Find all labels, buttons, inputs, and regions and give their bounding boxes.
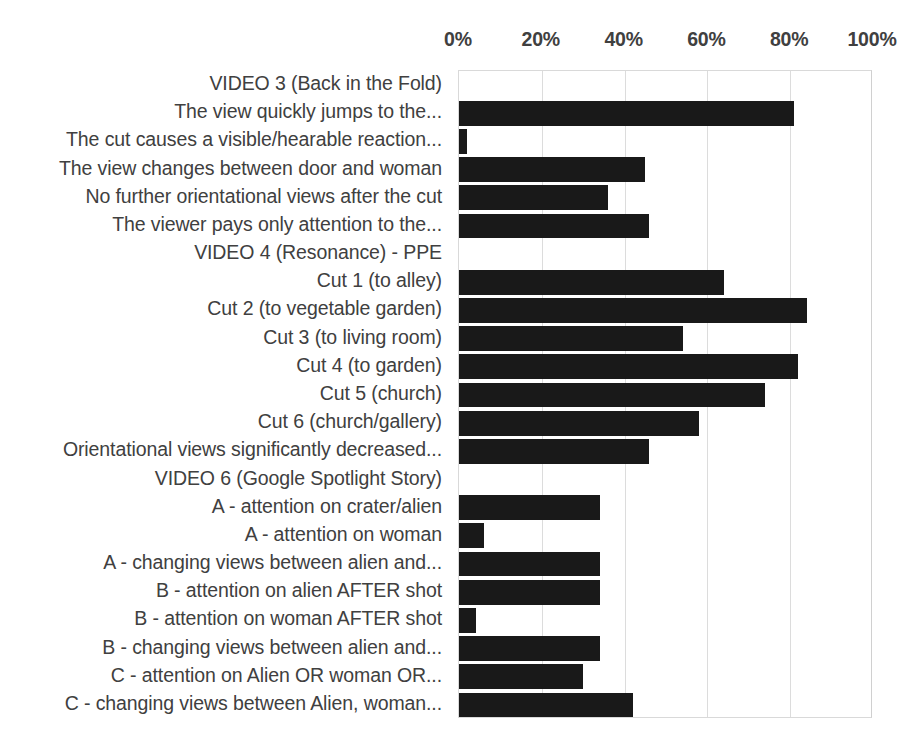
bar-row — [459, 296, 871, 324]
bar-row — [459, 437, 871, 465]
y-category-label: The view quickly jumps to the... — [174, 102, 442, 122]
bar — [459, 214, 649, 239]
bar-row — [459, 212, 871, 240]
y-category-label: B - attention on alien AFTER shot — [156, 581, 442, 601]
bar-row — [459, 409, 871, 437]
x-tick-label: 40% — [604, 28, 642, 51]
plot-area — [458, 70, 872, 718]
bar-row — [459, 156, 871, 184]
x-tick-label: 60% — [687, 28, 725, 51]
bar — [459, 298, 807, 323]
y-category-label: VIDEO 4 (Resonance) - PPE — [194, 243, 442, 263]
bar — [459, 439, 649, 464]
y-category-label: Cut 2 (to vegetable garden) — [207, 299, 442, 319]
bar — [459, 664, 583, 689]
y-category-label: Orientational views significantly decrea… — [63, 440, 442, 460]
bar — [459, 185, 608, 210]
bar-row — [459, 99, 871, 127]
bar-row — [459, 606, 871, 634]
bar — [459, 552, 600, 577]
bar-chart: 0%20%40%60%80%100% VIDEO 3 (Back in the … — [0, 0, 904, 744]
bar-row — [459, 634, 871, 662]
bar-row — [459, 381, 871, 409]
bar-row — [459, 494, 871, 522]
bar — [459, 157, 645, 182]
bar-row — [459, 184, 871, 212]
y-category-label: Cut 1 (to alley) — [317, 271, 442, 291]
bar-row — [459, 325, 871, 353]
bars-layer — [459, 71, 871, 717]
bar — [459, 580, 600, 605]
bar — [459, 326, 683, 351]
y-category-label: No further orientational views after the… — [85, 187, 442, 207]
bar — [459, 495, 600, 520]
bar — [459, 636, 600, 661]
x-tick-label: 100% — [847, 28, 896, 51]
y-category-label: A - changing views between alien and... — [103, 553, 442, 573]
x-axis-tick-labels: 0%20%40%60%80%100% — [458, 28, 872, 54]
bar-row — [459, 522, 871, 550]
y-category-label: C - attention on Alien OR woman OR... — [111, 666, 442, 686]
y-category-label: VIDEO 6 (Google Spotlight Story) — [155, 469, 442, 489]
bar — [459, 354, 798, 379]
bar-row — [459, 578, 871, 606]
bar — [459, 411, 699, 436]
y-category-label: B - attention on woman AFTER shot — [134, 609, 442, 629]
y-axis-category-labels: VIDEO 3 (Back in the Fold)The view quick… — [0, 70, 450, 718]
bar-row — [459, 550, 871, 578]
bar — [459, 129, 467, 154]
bar-row — [459, 663, 871, 691]
y-category-label: Cut 6 (church/gallery) — [258, 412, 442, 432]
y-category-label: C - changing views between Alien, woman.… — [65, 694, 442, 714]
bar-row — [459, 691, 871, 718]
bar-row — [459, 268, 871, 296]
x-tick-label: 0% — [444, 28, 472, 51]
bar-row — [459, 465, 871, 493]
bar — [459, 383, 765, 408]
bar — [459, 523, 484, 548]
y-category-label: VIDEO 3 (Back in the Fold) — [209, 74, 442, 94]
y-category-label: A - attention on woman — [245, 525, 442, 545]
y-category-label: Cut 5 (church) — [320, 384, 442, 404]
y-category-label: A - attention on crater/alien — [212, 497, 442, 517]
y-category-label: The cut causes a visible/hearable reacti… — [66, 130, 442, 150]
bar-row — [459, 127, 871, 155]
y-category-label: Cut 3 (to living room) — [263, 328, 442, 348]
bar — [459, 608, 476, 633]
bar — [459, 101, 794, 126]
bar — [459, 270, 724, 295]
bar-row — [459, 353, 871, 381]
bar-row — [459, 71, 871, 99]
y-category-label: Cut 4 (to garden) — [296, 356, 442, 376]
y-category-label: B - changing views between alien and... — [102, 638, 442, 658]
x-tick-label: 80% — [770, 28, 808, 51]
y-category-label: The view changes between door and woman — [59, 159, 442, 179]
y-category-label: The viewer pays only attention to the... — [112, 215, 442, 235]
x-tick-label: 20% — [522, 28, 560, 51]
bar-row — [459, 240, 871, 268]
bar — [459, 693, 633, 718]
